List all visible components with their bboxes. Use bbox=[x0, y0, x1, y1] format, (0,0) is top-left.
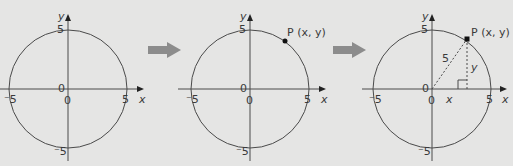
origin-label-below: 0 bbox=[428, 94, 435, 107]
arrow-2 bbox=[333, 42, 366, 58]
tick-right: 5 bbox=[304, 93, 311, 106]
origin-label-below: 0 bbox=[64, 94, 71, 107]
hypotenuse-label: 5 bbox=[442, 52, 449, 65]
tick-bottom: ⁻5 bbox=[236, 145, 249, 158]
vertical-leg-label: y bbox=[470, 61, 478, 74]
tick-bottom: ⁻5 bbox=[418, 145, 431, 158]
right-arrow-icon bbox=[333, 42, 366, 58]
x-axis-arrow-icon bbox=[500, 86, 507, 92]
tick-right: 5 bbox=[122, 93, 129, 106]
right-arrow-icon bbox=[148, 42, 181, 58]
y-axis-label: y bbox=[239, 10, 247, 23]
x-axis-arrow-icon bbox=[319, 86, 326, 92]
y-axis-arrow-icon bbox=[65, 14, 71, 21]
panel-1: y x 5 ⁻5 ⁻5 5 0 0 bbox=[0, 10, 146, 161]
y-axis-label: y bbox=[421, 10, 429, 23]
y-axis-arrow-icon bbox=[247, 14, 253, 21]
tick-right: 5 bbox=[486, 93, 493, 106]
origin-label-below: 0 bbox=[246, 94, 253, 107]
tick-bottom: ⁻5 bbox=[54, 145, 67, 158]
tick-top: 5 bbox=[421, 23, 428, 36]
x-axis-label: x bbox=[320, 93, 328, 106]
tick-top: 5 bbox=[57, 23, 64, 36]
x-axis-arrow-icon bbox=[137, 86, 144, 92]
point-p-label: P (x, y) bbox=[471, 26, 510, 39]
unit-circle-diagram: y x 5 ⁻5 ⁻5 5 0 0 y x 5 ⁻5 ⁻5 5 0 0 P (x… bbox=[0, 0, 513, 166]
right-angle-marker bbox=[458, 80, 467, 89]
panel-2: y x 5 ⁻5 ⁻5 5 0 0 P (x, y) bbox=[178, 10, 328, 161]
x-axis-label: x bbox=[501, 93, 509, 106]
point-p bbox=[465, 37, 470, 42]
tick-left: ⁻5 bbox=[369, 93, 382, 106]
tick-left: ⁻5 bbox=[4, 93, 17, 106]
tick-top: 5 bbox=[239, 23, 246, 36]
point-p bbox=[283, 39, 288, 44]
point-p-label: P (x, y) bbox=[287, 26, 326, 39]
radius-line bbox=[432, 39, 467, 89]
tick-left: ⁻5 bbox=[186, 93, 199, 106]
diagram-canvas: y x 5 ⁻5 ⁻5 5 0 0 y x 5 ⁻5 ⁻5 5 0 0 P (x… bbox=[0, 0, 513, 166]
x-axis-label: x bbox=[138, 93, 146, 106]
y-axis-label: y bbox=[57, 10, 65, 23]
y-axis-arrow-icon bbox=[429, 14, 435, 21]
arrow-1 bbox=[148, 42, 181, 58]
horizontal-leg-label: x bbox=[445, 93, 453, 106]
panel-3: y x 5 ⁻5 ⁻5 5 0 0 P (x, y) 5 y x bbox=[362, 10, 510, 161]
